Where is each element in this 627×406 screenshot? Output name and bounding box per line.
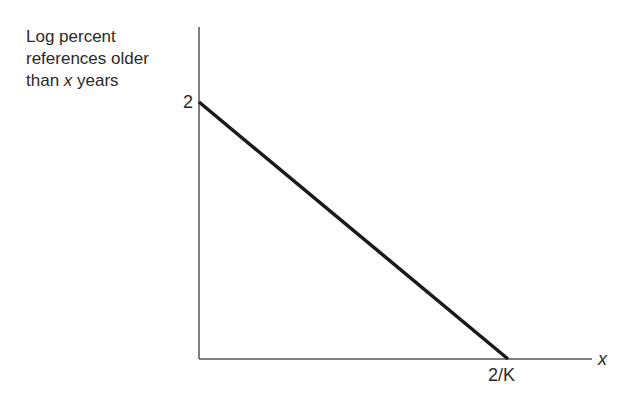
x-tick-2-over-k: 2/K bbox=[488, 365, 515, 386]
x-axis-label: x bbox=[598, 349, 607, 370]
data-line bbox=[199, 102, 508, 359]
y-tick-2: 2 bbox=[183, 92, 193, 113]
plot-area bbox=[0, 0, 627, 406]
